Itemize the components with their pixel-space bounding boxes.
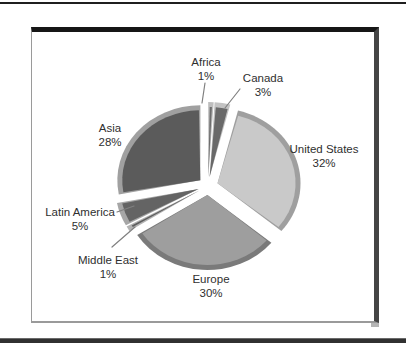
pie-slice-united-states (218, 116, 296, 227)
slice-label: Latin America (45, 206, 115, 218)
slice-label: Middle East (78, 254, 139, 266)
leader-line-canada (225, 89, 240, 108)
slice-pct-label: 30% (199, 287, 222, 299)
slice-pct-label: 1% (100, 268, 117, 280)
slice-label: Africa (191, 56, 221, 68)
slice-label: Europe (192, 273, 229, 285)
slice-label: Asia (99, 122, 122, 134)
bottom-rule (0, 338, 406, 343)
leader-line-middle-east (112, 227, 135, 247)
slice-pct-label: 5% (72, 220, 89, 232)
slice-pct-label: 1% (198, 70, 215, 82)
slice-pct-label: 32% (312, 157, 335, 169)
slice-pct-label: 3% (255, 86, 272, 98)
slice-pct-label: 28% (98, 136, 121, 148)
pie-slice-asia (122, 110, 200, 192)
pie-chart-svg: Africa1%Canada3%United States32%Europe30… (0, 0, 406, 346)
slice-label: Canada (243, 72, 284, 84)
page: Africa1%Canada3%United States32%Europe30… (0, 0, 406, 346)
slice-label: United States (289, 143, 358, 155)
leader-line-africa (202, 83, 205, 103)
